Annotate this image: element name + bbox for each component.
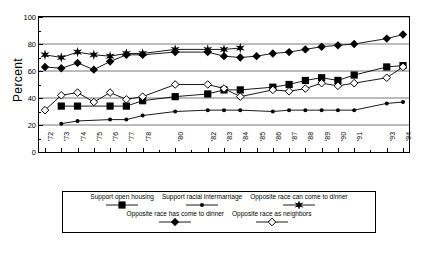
data-point bbox=[302, 77, 309, 84]
legend-label: Opposite race as neighbors bbox=[232, 209, 312, 218]
x-axis-tick bbox=[61, 148, 62, 152]
x-axis-tick bbox=[273, 148, 274, 152]
legend-marker-star bbox=[279, 201, 319, 209]
y-axis-tick-label: 60 bbox=[28, 67, 36, 76]
legend-label: Support racial intermarriage bbox=[162, 192, 242, 201]
x-axis-tick-label: '74 bbox=[80, 132, 87, 141]
x-axis-tick bbox=[322, 148, 323, 152]
legend-item[interactable]: Opposite race as neighbors bbox=[232, 209, 312, 226]
data-point bbox=[252, 52, 260, 60]
data-point bbox=[287, 108, 291, 112]
data-point bbox=[204, 90, 211, 97]
data-point bbox=[352, 108, 356, 112]
x-axis-tick bbox=[338, 148, 339, 152]
y-axis-tick-label: 100 bbox=[23, 13, 36, 22]
data-point bbox=[222, 108, 226, 112]
data-point bbox=[350, 79, 358, 87]
x-axis-tick bbox=[305, 148, 306, 152]
data-point bbox=[285, 48, 293, 56]
y-axis-minor-tick bbox=[39, 31, 41, 32]
x-axis-tick bbox=[289, 148, 290, 152]
data-point bbox=[200, 203, 204, 207]
x-axis-tick bbox=[354, 148, 355, 152]
x-axis-tick-label: '87 bbox=[291, 132, 298, 141]
x-axis-tick bbox=[45, 148, 46, 152]
data-point bbox=[76, 119, 80, 123]
x-axis-tick bbox=[257, 148, 258, 152]
x-axis-tick bbox=[191, 150, 192, 152]
legend-item[interactable]: Support racial intermarriage bbox=[162, 192, 242, 209]
data-point bbox=[334, 41, 342, 49]
data-point bbox=[172, 93, 179, 100]
data-point bbox=[206, 108, 210, 112]
x-axis-tick bbox=[403, 148, 404, 152]
data-point bbox=[106, 103, 113, 110]
plot-svg bbox=[39, 17, 409, 152]
legend-label: Support open housing bbox=[90, 192, 154, 201]
y-axis-tick-label: 20 bbox=[28, 121, 36, 130]
data-point bbox=[173, 110, 177, 114]
y-axis-tick bbox=[39, 98, 43, 99]
x-axis-tick-label: '77 bbox=[128, 132, 135, 141]
data-point bbox=[351, 71, 358, 78]
data-point bbox=[41, 63, 49, 71]
x-axis-tick bbox=[208, 148, 209, 152]
y-axis-tick bbox=[39, 152, 43, 153]
y-axis-tick bbox=[39, 125, 43, 126]
data-point bbox=[74, 103, 81, 110]
data-point bbox=[41, 50, 50, 60]
legend-marker-filled-diamond bbox=[155, 218, 195, 226]
x-axis-tick bbox=[126, 148, 127, 152]
legend-item[interactable]: Opposite race has come to dinner bbox=[126, 209, 224, 226]
x-axis-tick-label: '86 bbox=[275, 132, 282, 141]
x-axis-tick bbox=[224, 148, 225, 152]
data-point bbox=[57, 52, 66, 62]
x-axis-tick-label: '85 bbox=[259, 132, 266, 141]
data-point bbox=[59, 122, 63, 126]
data-point bbox=[90, 98, 98, 106]
x-axis-tick bbox=[143, 148, 144, 152]
data-point bbox=[123, 96, 131, 104]
chart-container: Percent 020406080100 Support open housin… bbox=[0, 0, 425, 255]
data-point bbox=[73, 59, 81, 67]
y-axis-tick-label: 0 bbox=[32, 148, 36, 157]
data-point bbox=[106, 57, 114, 65]
x-axis-tick-label: '82 bbox=[210, 132, 217, 141]
x-axis-tick bbox=[78, 148, 79, 152]
data-point bbox=[74, 89, 82, 97]
legend-item[interactable]: Opposite race can come to dinner bbox=[250, 192, 348, 209]
data-point bbox=[58, 103, 65, 110]
data-point bbox=[106, 89, 114, 97]
data-point bbox=[90, 65, 98, 73]
x-axis-tick bbox=[240, 148, 241, 152]
data-point bbox=[401, 100, 405, 104]
x-axis-tick bbox=[175, 148, 176, 152]
legend-row-1: Support open housingSupport racial inter… bbox=[63, 192, 375, 209]
data-point bbox=[108, 118, 112, 122]
x-axis-tick-label: '72 bbox=[47, 132, 54, 141]
data-point bbox=[220, 52, 228, 60]
data-point bbox=[302, 85, 310, 93]
x-axis-tick bbox=[387, 148, 388, 152]
legend-label: Opposite race has come to dinner bbox=[126, 209, 224, 218]
y-axis-tick-label: 40 bbox=[28, 94, 36, 103]
data-point bbox=[141, 114, 145, 118]
x-axis-tick bbox=[370, 150, 371, 152]
y-axis-minor-tick bbox=[39, 112, 41, 113]
data-point bbox=[303, 108, 307, 112]
x-axis-tick-label: '76 bbox=[112, 132, 119, 141]
x-axis-tick-label: '80 bbox=[177, 132, 184, 141]
x-axis-tick-label: '94 bbox=[405, 132, 412, 141]
data-point bbox=[268, 218, 276, 226]
data-point bbox=[73, 47, 82, 57]
legend-item[interactable]: Support open housing bbox=[90, 192, 154, 209]
x-axis-tick bbox=[94, 148, 95, 152]
y-axis-minor-tick bbox=[39, 139, 41, 140]
x-axis-tick-label: '73 bbox=[63, 132, 70, 141]
data-point bbox=[238, 108, 242, 112]
x-axis-tick-label: '75 bbox=[96, 132, 103, 141]
chart-legend: Support open housingSupport racial inter… bbox=[62, 191, 376, 233]
data-point bbox=[171, 81, 179, 89]
legend-marker-open-diamond bbox=[252, 218, 292, 226]
x-axis-tick bbox=[110, 148, 111, 152]
